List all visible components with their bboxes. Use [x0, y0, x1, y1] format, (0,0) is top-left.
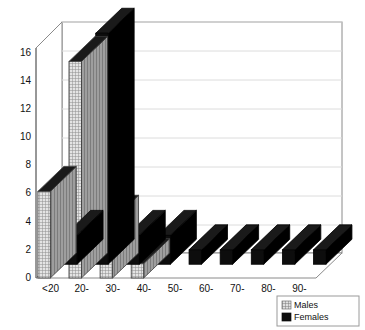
- bar-females-1-side: [108, 8, 134, 264]
- bar-males-0-face: [38, 191, 50, 278]
- bar-females-7-face: [282, 250, 294, 264]
- y-tick-2: 2: [25, 244, 31, 255]
- x-category-label-5: 60-: [199, 283, 213, 294]
- legend: Males Females: [277, 296, 359, 326]
- x-axis-categories: <2020-30-40-50-60-70-80-90-: [42, 283, 307, 294]
- y-axis-ticks: 0 2 4 6 8 10 12 14 16: [20, 47, 32, 283]
- x-category-label-6: 70-: [230, 283, 244, 294]
- bar-chart: 0 2 4 6 8 10 12 14 16 <2020-30-40-50-60-…: [0, 0, 365, 330]
- x-category-label-3: 40-: [137, 283, 151, 294]
- bar-females-6-face: [251, 250, 263, 264]
- x-category-label-0: <20: [42, 283, 59, 294]
- x-category-label-8: 90-: [292, 283, 306, 294]
- x-category-label-4: 50-: [168, 283, 182, 294]
- x-category-label-1: 20-: [74, 283, 88, 294]
- y-tick-6: 6: [25, 187, 31, 198]
- bar-males-3-face: [131, 264, 143, 278]
- legend-swatch-males: [282, 301, 291, 309]
- x-category-label-2: 30-: [106, 283, 120, 294]
- y-tick-10: 10: [20, 131, 32, 142]
- y-tick-16: 16: [20, 47, 32, 58]
- legend-label-females: Females: [294, 312, 329, 322]
- legend-swatch-females: [282, 313, 291, 321]
- y-tick-0: 0: [25, 272, 31, 283]
- y-tick-14: 14: [20, 75, 32, 86]
- y-tick-4: 4: [25, 216, 31, 227]
- y-tick-8: 8: [25, 159, 31, 170]
- chart-canvas: 0 2 4 6 8 10 12 14 16 <2020-30-40-50-60-…: [0, 0, 365, 330]
- bar-females-4-face: [189, 250, 201, 264]
- x-category-label-7: 80-: [261, 283, 275, 294]
- bar-females-5-face: [220, 250, 232, 264]
- bar-females-8-face: [314, 250, 326, 264]
- legend-label-males: Males: [294, 300, 319, 310]
- y-tick-12: 12: [20, 103, 32, 114]
